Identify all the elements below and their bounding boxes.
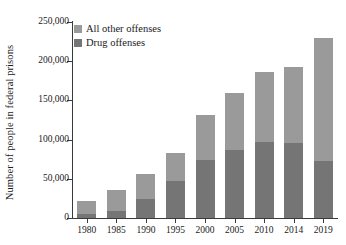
bar-segment-drug-offenses <box>196 160 215 218</box>
bar-segment-all-other-offenses <box>255 72 274 142</box>
legend-label: Drug offenses <box>86 38 145 49</box>
y-tick-label: 50,000 <box>43 174 69 184</box>
legend-item: All other offenses <box>74 23 161 35</box>
bar-segment-drug-offenses <box>255 142 274 218</box>
bar <box>225 93 244 218</box>
bar-segment-drug-offenses <box>225 150 244 218</box>
bar-segment-all-other-offenses <box>77 201 96 214</box>
bar-segment-drug-offenses <box>166 181 185 218</box>
x-tick-mark <box>205 219 206 223</box>
bar-segment-drug-offenses <box>107 211 126 218</box>
x-tick-mark <box>323 219 324 223</box>
x-axis-ticks: 198019851990199520002005201020142019 <box>72 219 338 243</box>
bar <box>166 153 185 218</box>
plot-area: 050,000100,000150,000200,000250,000 <box>72 22 338 218</box>
bar-segment-drug-offenses <box>284 143 303 218</box>
bar <box>77 201 96 218</box>
y-tick-label: 100,000 <box>38 135 69 145</box>
x-tick-mark <box>116 219 117 223</box>
bar-segment-all-other-offenses <box>136 174 155 199</box>
y-tick-label: 200,000 <box>38 56 69 66</box>
bar-segment-drug-offenses <box>314 161 333 218</box>
bar-segment-all-other-offenses <box>225 93 244 150</box>
legend-swatch-icon <box>74 25 82 33</box>
bar-segment-all-other-offenses <box>107 190 126 211</box>
x-tick-mark <box>175 219 176 223</box>
bar-segment-all-other-offenses <box>196 115 215 160</box>
bar-segment-drug-offenses <box>77 214 96 218</box>
x-tick-label: 2010 <box>255 225 274 235</box>
x-tick-mark <box>235 219 236 223</box>
x-tick-mark <box>87 219 88 223</box>
x-tick-label: 2000 <box>196 225 215 235</box>
bar-segment-all-other-offenses <box>314 38 333 160</box>
x-tick-mark <box>146 219 147 223</box>
x-tick-mark <box>294 219 295 223</box>
y-tick-label: 150,000 <box>38 96 69 106</box>
bar-segment-all-other-offenses <box>166 153 185 181</box>
bar-segment-drug-offenses <box>136 199 155 218</box>
legend-label: All other offenses <box>86 24 161 35</box>
x-tick-label: 1985 <box>107 225 126 235</box>
x-tick-label: 2019 <box>314 225 333 235</box>
y-tick-label: 0 <box>64 213 69 223</box>
bar <box>107 190 126 218</box>
x-tick-label: 1980 <box>77 225 96 235</box>
bar <box>255 72 274 218</box>
x-tick-label: 1995 <box>166 225 185 235</box>
bar <box>136 174 155 218</box>
y-tick-label: 250,000 <box>38 17 69 27</box>
y-axis-title: Number of people in federal prisons <box>0 0 18 245</box>
x-tick-label: 2005 <box>225 225 244 235</box>
x-tick-label: 2014 <box>284 225 303 235</box>
bar-chart: Number of people in federal prisons 050,… <box>0 0 346 245</box>
chart-legend: All other offensesDrug offenses <box>74 23 161 49</box>
bar <box>196 115 215 218</box>
legend-item: Drug offenses <box>74 37 161 49</box>
bar <box>284 67 303 218</box>
x-tick-label: 1990 <box>136 225 155 235</box>
bar <box>314 38 333 218</box>
legend-swatch-icon <box>74 39 82 47</box>
bar-segment-all-other-offenses <box>284 67 303 142</box>
x-tick-mark <box>264 219 265 223</box>
